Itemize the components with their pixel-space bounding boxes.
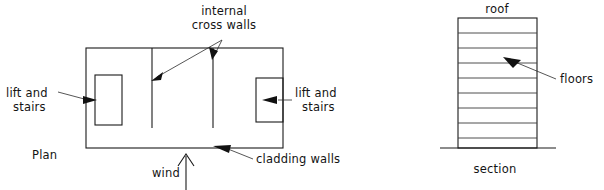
label-floors: floors bbox=[560, 72, 593, 86]
section-outline-rect bbox=[458, 18, 537, 148]
diagram-svg: internal cross walls lift and stairs lif… bbox=[0, 0, 604, 190]
label-lift-stairs-left-line1: lift and bbox=[6, 86, 48, 100]
label-lift-stairs-right-line2: stairs bbox=[302, 100, 335, 114]
floors-leader bbox=[515, 62, 556, 79]
cross-walls-arrowhead-left bbox=[151, 72, 163, 81]
text-labels: internal cross walls lift and stairs lif… bbox=[6, 2, 593, 180]
label-cladding-walls: cladding walls bbox=[256, 152, 340, 166]
label-roof: roof bbox=[485, 2, 509, 16]
label-internal-cross-walls-line1: internal bbox=[201, 4, 247, 18]
section-view bbox=[440, 18, 556, 148]
diagram-canvas: internal cross walls lift and stairs lif… bbox=[0, 0, 604, 190]
label-internal-cross-walls-line2: cross walls bbox=[192, 18, 257, 32]
cladding-walls-arrowhead bbox=[213, 145, 231, 153]
lift-stairs-box-left bbox=[95, 75, 122, 125]
cladding-walls-leader bbox=[228, 149, 253, 159]
plan-view bbox=[86, 48, 283, 148]
label-lift-stairs-right-line1: lift and bbox=[295, 86, 337, 100]
floors-arrowhead bbox=[503, 57, 521, 68]
plan-outline-rect bbox=[86, 48, 283, 148]
caption-plan: Plan bbox=[32, 148, 57, 162]
label-lift-stairs-left-line2: stairs bbox=[13, 100, 46, 114]
lift-stairs-arrowhead-right bbox=[262, 96, 277, 104]
label-wind: wind bbox=[152, 166, 180, 180]
caption-section: section bbox=[474, 162, 517, 176]
